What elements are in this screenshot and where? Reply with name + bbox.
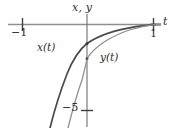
tick-label-t-minus-1: −1	[11, 27, 27, 38]
graph-figure: x, y t −1 1 −5 x(t) y(t)	[0, 0, 176, 128]
vertical-axis-label: x, y	[72, 2, 92, 13]
curve-label-y-of-t: y(t)	[100, 52, 118, 63]
plot-canvas	[0, 0, 176, 128]
curve-label-x-of-t: x(t)	[37, 42, 55, 53]
curve-y-of-t	[68, 25, 155, 128]
tick-label-y-minus-5: −5	[62, 102, 78, 113]
tick-label-t-plus-1: 1	[150, 28, 157, 39]
y-axis-intercept-dot	[86, 57, 89, 60]
x-axis-intercept-dot	[86, 42, 89, 45]
horizontal-axis-label: t	[163, 16, 167, 27]
